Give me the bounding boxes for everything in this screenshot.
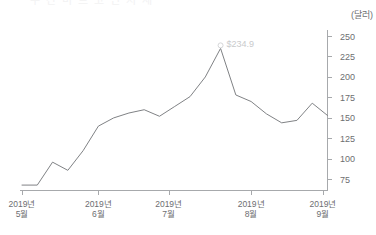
y-tick-label: 150	[340, 113, 355, 123]
y-tick-label: 75	[340, 175, 350, 185]
y-tick-label: 125	[340, 134, 355, 144]
y-tick-label: 200	[340, 72, 355, 82]
x-tick-label-month: 9월	[317, 209, 330, 219]
series-line-bitcoin	[22, 48, 328, 185]
x-axis: 2019년5월2019년6월2019년7월2019년8월2019년9월	[9, 191, 337, 220]
chart-container: 주 간 비 트 코 인 시 세 (달러) 7510012515017520022…	[0, 0, 376, 235]
y-axis: 75100125150175200225250	[328, 30, 356, 190]
series-group	[22, 48, 328, 185]
peak-annotation: $234.9	[218, 39, 254, 49]
x-tick-label-month: 7월	[162, 209, 175, 219]
x-tick-label-month: 6월	[92, 209, 105, 219]
peak-value-label: $234.9	[227, 39, 255, 49]
x-tick-label-year: 2019년	[238, 199, 265, 209]
y-tick-label: 225	[340, 52, 355, 62]
x-tick-label-month: 5월	[16, 209, 29, 219]
x-tick-label-month: 8월	[245, 209, 258, 219]
y-tick-label: 175	[340, 93, 355, 103]
x-tick-label-year: 2019년	[9, 199, 36, 209]
y-tick-label: 250	[340, 32, 355, 42]
x-tick-label-year: 2019년	[155, 199, 182, 209]
x-tick-label-year: 2019년	[309, 199, 336, 209]
x-tick-label-year: 2019년	[85, 199, 112, 209]
line-chart-plot: 75100125150175200225250 2019년5월2019년6월20…	[0, 0, 376, 235]
y-tick-label: 100	[340, 154, 355, 164]
peak-marker-dot	[218, 43, 223, 48]
